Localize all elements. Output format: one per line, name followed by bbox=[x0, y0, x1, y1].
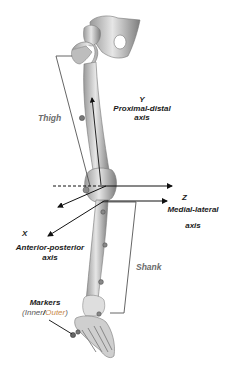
x-axis-name: Anterior-posterior bbox=[10, 243, 90, 252]
inner-marker-label: Inner bbox=[25, 308, 43, 317]
femur-bone bbox=[71, 42, 110, 178]
shank-label: Shank bbox=[136, 263, 162, 272]
marker-dot bbox=[97, 312, 101, 316]
shank-bracket bbox=[102, 202, 136, 313]
markers-type-label: (Inner/Outer) bbox=[14, 308, 76, 317]
marker-dot bbox=[76, 330, 80, 334]
marker-dot bbox=[101, 210, 105, 214]
y-axis-name: Proximal-distal bbox=[110, 104, 174, 113]
marker-dot bbox=[99, 280, 104, 285]
marker-dot bbox=[79, 115, 84, 120]
foot-bones bbox=[75, 316, 115, 358]
marker-pointer-line bbox=[49, 320, 72, 334]
x-axis-suffix: axis bbox=[10, 253, 90, 262]
z-axis-name: Medial-lateral bbox=[160, 205, 226, 214]
z-axis-letter: Z bbox=[182, 193, 187, 202]
z-axis-suffix: axis bbox=[160, 221, 226, 230]
thigh-label: Thigh bbox=[38, 114, 61, 123]
x-axis-letter: X bbox=[22, 229, 27, 238]
close-paren: ) bbox=[65, 308, 68, 317]
leg-axes-diagram: Thigh Y Proximal-distal axis Z Medial-la… bbox=[0, 0, 229, 373]
y-axis-suffix: axis bbox=[110, 113, 174, 122]
outer-marker-label: Outer bbox=[45, 308, 65, 317]
y-axis-letter: Y bbox=[110, 95, 174, 104]
markers-label: Markers bbox=[14, 298, 76, 307]
marker-dot bbox=[103, 243, 107, 247]
y-axis-label: Y Proximal-distal axis bbox=[110, 95, 174, 122]
leg-skeleton-illustration bbox=[0, 0, 229, 373]
